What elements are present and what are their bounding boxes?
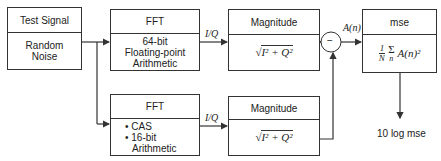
test-signal-header: Test Signal (8, 8, 81, 33)
body-line: Arithmetic (125, 143, 176, 154)
subtract-symbol: − (327, 35, 333, 46)
magnitude-formula: √I² + Q² (229, 120, 319, 155)
test-signal-body: Random Noise (8, 33, 81, 69)
body-line: Arithmetic (133, 58, 177, 69)
body-line: 64-bit (142, 36, 167, 47)
mse-block: mse 1 N Σ n A(n)² (362, 9, 437, 73)
magnitude-test-block: Magnitude √I² + Q² (228, 96, 320, 156)
difference-label: A(n) (343, 22, 361, 33)
iq-label-bottom: I/Q (205, 112, 218, 123)
bullet-item: • 16-bit (125, 132, 156, 143)
magnitude-test-header: Magnitude (229, 97, 319, 120)
magnitude-reference-block: Magnitude √I² + Q² (228, 9, 320, 71)
output-label: 10 log mse (377, 128, 426, 139)
fft-test-body: • CAS • 16-bit Arithmetic (111, 119, 199, 155)
bullet-item: • CAS (125, 121, 152, 132)
fft-reference-header: FFT (111, 10, 199, 34)
body-line: Floating-point (125, 47, 186, 58)
fft-reference-block: FFT 64-bit Floating-point Arithmetic (110, 9, 200, 71)
fft-test-header: FFT (111, 95, 199, 119)
mse-formula: 1 N Σ n A(n)² (363, 35, 436, 72)
magnitude-reference-header: Magnitude (229, 10, 319, 35)
mse-header: mse (363, 10, 436, 35)
body-line: Random (26, 40, 64, 51)
body-line: Noise (32, 51, 58, 62)
fft-test-block: FFT • CAS • 16-bit Arithmetic (110, 94, 200, 156)
magnitude-formula: √I² + Q² (229, 35, 319, 70)
fft-reference-body: 64-bit Floating-point Arithmetic (111, 34, 199, 70)
iq-label-top: I/Q (205, 28, 218, 39)
test-signal-block: Test Signal Random Noise (7, 7, 82, 70)
